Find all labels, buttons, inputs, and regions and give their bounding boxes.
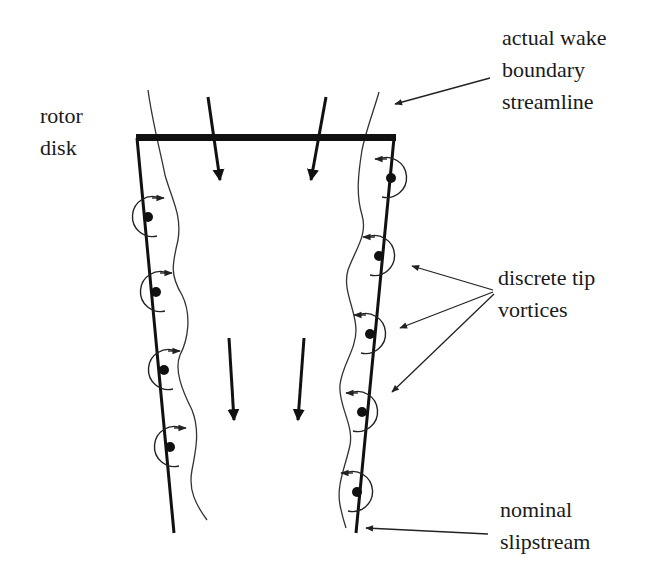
flow-arrow-lower-left — [229, 338, 234, 420]
tip-vortices-leader-arrow-3 — [392, 294, 494, 392]
flow-arrow-lower-right — [298, 338, 304, 420]
tip-vortices-leader-arrow-1 — [412, 266, 493, 290]
right-wake-boundary-streamline — [339, 92, 379, 528]
wake-boundary-label: actual wake boundary streamline — [502, 22, 606, 118]
right-tip-vortex-5 — [341, 472, 373, 512]
left-tip-vortex-3 — [148, 350, 180, 390]
slipstream-leader-arrow — [366, 528, 488, 534]
left-tip-vortex-2 — [140, 272, 172, 312]
slipstream-label: nominal slipstream — [500, 494, 590, 558]
right-tip-vortex-2 — [363, 236, 395, 276]
wake-boundary-leader-arrow — [395, 78, 490, 104]
right-tip-vortex-3 — [354, 314, 386, 354]
tip-vortices-leader-arrow-2 — [400, 292, 493, 328]
rotor-disk-bar — [136, 134, 396, 141]
tip-vortices-label: discrete tip vortices — [498, 262, 595, 326]
left-tip-vortex-4 — [154, 427, 186, 467]
left-tip-vortex-1 — [132, 197, 164, 237]
rotor-disk-label: rotor disk — [40, 100, 83, 164]
right-tip-vortex-4 — [346, 392, 378, 432]
